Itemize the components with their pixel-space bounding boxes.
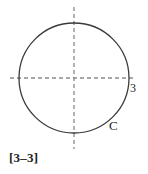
radius-value-label: 3 bbox=[130, 82, 136, 94]
figure-container: 3 C [3–3] bbox=[0, 0, 148, 174]
curve-name-label: C bbox=[109, 119, 118, 132]
figure-caption: [3–3] bbox=[9, 151, 38, 164]
figure-canvas bbox=[0, 0, 148, 174]
